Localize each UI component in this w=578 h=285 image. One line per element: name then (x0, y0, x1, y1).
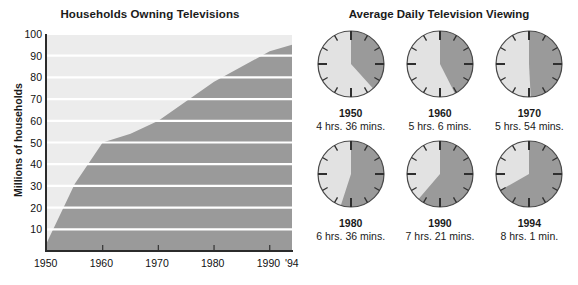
area-chart-plot (47, 34, 292, 251)
clock-grid: 19504 hrs. 36 mins.19605 hrs. 6 mins.197… (306, 26, 574, 242)
clock-year-label: 1994 (485, 217, 574, 230)
clock-face-1950 (311, 26, 391, 106)
clock-panel-title: Average Daily Television Viewing (300, 8, 578, 20)
clock-cell-1950: 19504 hrs. 36 mins. (306, 26, 395, 132)
clock-cell-1970: 19705 hrs. 54 mins. (485, 26, 574, 132)
clock-duration-label: 6 hrs. 36 mins. (306, 230, 395, 242)
clock-face-1960 (400, 26, 480, 106)
x-tick-label-1950: 1950 (34, 257, 57, 269)
tv-viewing-clock-panel: Average Daily Television Viewing 19504 h… (300, 0, 578, 285)
x-tick-label-1960: 1960 (90, 257, 113, 269)
clock-face-1994 (489, 136, 569, 216)
area-chart-title: Households Owning Televisions (0, 8, 300, 20)
clock-cell-1990: 19907 hrs. 21 mins. (395, 136, 484, 242)
y-tick-label-30: 30 (16, 181, 42, 191)
y-tick-label-80: 80 (16, 72, 42, 82)
y-tick-label-60: 60 (16, 116, 42, 126)
y-tick-label-10: 10 (16, 224, 42, 234)
households-area-chart-panel: Households Owning Televisions Millions o… (0, 0, 300, 285)
clock-face-1990 (400, 136, 480, 216)
y-axis-line (45, 34, 47, 252)
clock-duration-label: 7 hrs. 21 mins. (395, 230, 484, 242)
y-tick-label-20: 20 (16, 203, 42, 213)
y-tick-label-40: 40 (16, 159, 42, 169)
clock-face-1980 (311, 136, 391, 216)
y-tick-label-100: 100 (16, 29, 42, 39)
x-tick-label-1970: 1970 (145, 257, 168, 269)
clock-year-label: 1990 (395, 217, 484, 230)
clock-cell-1994: 19948 hrs. 1 min. (485, 136, 574, 242)
x-tick-label-1990: 1990 (257, 257, 280, 269)
y-tick-label-70: 70 (16, 94, 42, 104)
y-axis-tick-labels: 100908070605040302010 (12, 0, 42, 285)
x-tick-label-1980: 1980 (201, 257, 224, 269)
clock-duration-label: 8 hrs. 1 min. (485, 230, 574, 242)
y-tick-label-90: 90 (16, 51, 42, 61)
clock-face-1970 (489, 26, 569, 106)
x-axis-line (45, 250, 293, 252)
x-axis-tick-labels: 19501960197019801990'94 (0, 254, 300, 274)
clock-cell-1960: 19605 hrs. 6 mins. (395, 26, 484, 132)
clock-duration-label: 4 hrs. 36 mins. (306, 120, 395, 132)
y-tick-label-50: 50 (16, 138, 42, 148)
clock-duration-label: 5 hrs. 6 mins. (395, 120, 484, 132)
clock-year-label: 1950 (306, 107, 395, 120)
area-chart-svg (47, 34, 292, 251)
clock-cell-1980: 19806 hrs. 36 mins. (306, 136, 395, 242)
clock-duration-label: 5 hrs. 54 mins. (485, 120, 574, 132)
clock-year-label: 1980 (306, 217, 395, 230)
x-tick-label-94: '94 (285, 257, 299, 269)
clock-year-label: 1960 (395, 107, 484, 120)
clock-year-label: 1970 (485, 107, 574, 120)
